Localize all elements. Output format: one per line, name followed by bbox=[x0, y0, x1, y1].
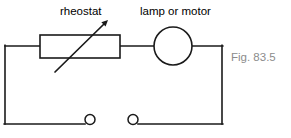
circuit-diagram: rheostat lamp or motor Fig. 83.5 bbox=[0, 0, 291, 138]
terminal-left-icon bbox=[85, 115, 95, 125]
rheostat-symbol bbox=[40, 20, 120, 72]
terminal-right-icon bbox=[128, 115, 138, 125]
rheostat-label: rheostat bbox=[60, 5, 102, 17]
lamp-or-motor-label: lamp or motor bbox=[140, 5, 211, 17]
lamp-or-motor-symbol bbox=[154, 27, 192, 65]
figure-caption: Fig. 83.5 bbox=[231, 51, 276, 63]
lamp-or-motor-body bbox=[154, 27, 192, 65]
figure-container: rheostat lamp or motor Fig. 83.5 bbox=[0, 0, 291, 138]
switch-terminals bbox=[85, 115, 138, 125]
